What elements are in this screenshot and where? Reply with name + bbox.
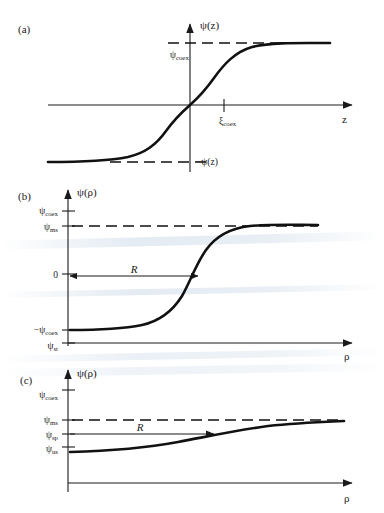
panel-b-label-zero: 0 bbox=[53, 270, 58, 280]
panel-a-x-axis-label: z bbox=[342, 113, 347, 125]
panel-a: (a) ψ(z) z ψcoex −ψ(z) ξcoex bbox=[0, 0, 384, 180]
figure-root: (a) ψ(z) z ψcoex −ψ(z) ξcoex bbox=[0, 0, 384, 513]
panel-c: (c) ψ(ρ) ρ ψcoex ψms ψsp ψus R bbox=[0, 362, 384, 513]
panel-c-x-axis-label: ρ bbox=[344, 492, 350, 504]
panel-a-label-xi-coex: ξcoex bbox=[219, 116, 237, 127]
panel-b-label-neg-psi-coex: −ψcoex bbox=[34, 325, 59, 336]
panel-c-y-axis-label: ψ(ρ) bbox=[77, 367, 97, 380]
panel-a-curve bbox=[48, 43, 330, 162]
panel-b-label-psi-st: ψst bbox=[48, 341, 59, 352]
panel-c-label-psi-sp: ψsp bbox=[46, 430, 59, 441]
panel-b-label-psi-ms: ψms bbox=[44, 222, 58, 233]
panel-a-y-axis-label: ψ(z) bbox=[200, 19, 219, 32]
panel-a-label: (a) bbox=[18, 23, 31, 36]
panel-c-label-psi-coex: ψcoex bbox=[39, 390, 58, 401]
panel-c-label-psi-ms: ψms bbox=[44, 415, 58, 426]
panel-a-label-neg-psi: −ψ(z) bbox=[196, 157, 218, 168]
panel-b-label-psi-coex: ψcoex bbox=[39, 206, 58, 217]
panel-b-label: (b) bbox=[18, 190, 31, 203]
panel-b-x-axis-label: ρ bbox=[344, 350, 350, 362]
panel-a-label-psi-coex: ψcoex bbox=[170, 50, 189, 61]
panel-c-curve bbox=[70, 421, 344, 452]
panel-b: (b) ψ(ρ) ρ ψcoex ψms 0 −ψcoex ψst bbox=[0, 178, 384, 366]
panel-c-label-psi-us: ψus bbox=[46, 444, 58, 455]
panel-b-curve bbox=[70, 225, 318, 330]
panel-b-y-axis-label: ψ(ρ) bbox=[77, 186, 97, 199]
panel-b-radius-label: R bbox=[130, 263, 138, 275]
panel-c-radius-label: R bbox=[136, 421, 144, 433]
panel-c-label: (c) bbox=[20, 374, 33, 387]
